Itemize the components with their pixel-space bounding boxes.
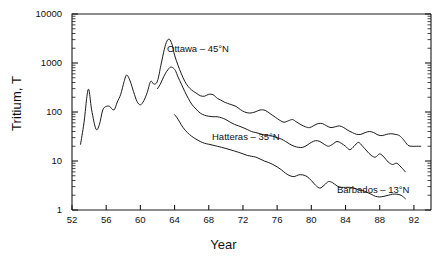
series-annotation-1: Hatteras – 35°N: [212, 131, 280, 142]
x-tick-label: 76: [262, 214, 292, 225]
x-tick-label: 80: [296, 214, 326, 225]
series-annotation-2: Barbados – 13°N: [337, 184, 409, 195]
x-axis-major-ticks: [72, 205, 414, 210]
series-line-1: [157, 67, 405, 172]
series-annotation-0: Ottawa – 45°N: [167, 43, 229, 54]
chart-figure: Tritium, T Year 525660646872768084889211…: [0, 0, 447, 262]
x-tick-label: 60: [125, 214, 155, 225]
x-tick-label: 84: [331, 214, 361, 225]
x-tick-label: 68: [194, 214, 224, 225]
x-tick-label: 64: [160, 214, 190, 225]
y-tick-label: 100: [0, 106, 62, 117]
x-tick-label: 56: [91, 214, 121, 225]
x-tick-label: 72: [228, 214, 258, 225]
y-tick-label: 10: [0, 155, 62, 166]
plot-frame: [72, 14, 431, 210]
y-tick-label: 10000: [0, 8, 62, 19]
y-tick-label: 1000: [0, 57, 62, 68]
x-tick-label: 88: [365, 214, 395, 225]
x-tick-label: 52: [57, 214, 87, 225]
x-tick-label: 92: [399, 214, 429, 225]
y-tick-label: 1: [0, 204, 62, 215]
y-axis-title: Tritium, T: [9, 54, 24, 154]
caption-ghost-line: [4, 250, 444, 260]
y-axis-major-ticks: [72, 14, 431, 210]
y-axis-minor-ticks: [72, 16, 431, 195]
